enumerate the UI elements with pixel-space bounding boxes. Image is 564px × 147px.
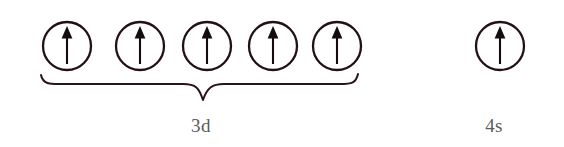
orbital-group-4s: 4s (476, 22, 524, 136)
orbital-3d-4[interactable] (249, 22, 297, 70)
shell-label-3d: 3d (191, 115, 211, 136)
orbital-3d-1[interactable] (43, 22, 91, 70)
orbital-diagram: 3d 4s (0, 0, 564, 147)
orbital-3d-3[interactable] (183, 22, 231, 70)
underbrace-3d (41, 74, 358, 100)
shell-label-4s: 4s (485, 115, 503, 136)
orbital-group-3d: 3d (41, 22, 361, 136)
orbital-3d-2[interactable] (116, 22, 164, 70)
orbital-3d-5[interactable] (313, 22, 361, 70)
orbital-diagram-canvas: 3d 4s (0, 0, 564, 147)
orbital-4s-1[interactable] (476, 22, 524, 70)
